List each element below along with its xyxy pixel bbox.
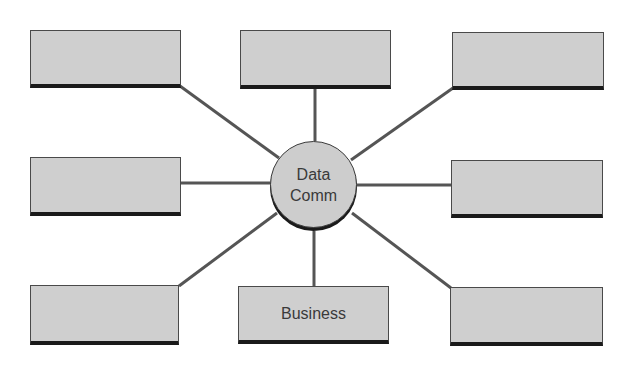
connector-top-left [180,86,279,158]
hub-label-line2: Comm [290,185,337,206]
hub-label-line1: Data [297,164,331,185]
node-top-right [452,32,604,90]
node-top-left [30,30,181,88]
node-middle-right [451,160,603,218]
node-label: Business [281,305,346,323]
connector-bottom-left [179,213,277,286]
node-bottom-left [30,285,179,345]
node-bottom-center: Business [238,286,389,344]
hub-node-data-comm: Data Comm [270,141,357,228]
node-bottom-right [450,287,603,346]
node-middle-left [30,157,181,216]
connector-bottom-right [352,213,451,288]
connector-top-right [351,88,453,160]
node-top-center [240,30,391,89]
